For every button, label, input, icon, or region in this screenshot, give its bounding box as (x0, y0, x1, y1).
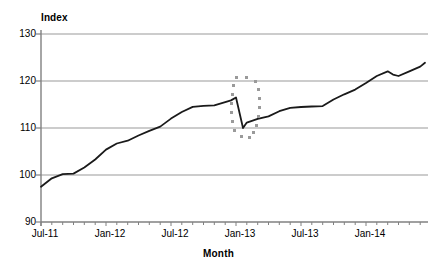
x-axis-title: Month (0, 248, 437, 259)
gridlines (41, 34, 428, 175)
chart-canvas (0, 0, 437, 269)
index-line-chart: Index 130 120 110 100 90 Jul-11 Jan-12 J… (0, 0, 437, 269)
drop-highlight-ellipse (230, 76, 261, 139)
y-axis-major-ticks (36, 34, 41, 222)
